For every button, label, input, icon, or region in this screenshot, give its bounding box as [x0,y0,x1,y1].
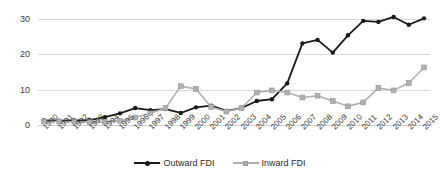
data-point [407,23,411,27]
data-point [148,111,153,116]
y-tick-label-0: 0 [25,120,30,130]
series-line [44,17,424,121]
y-axis: 0102030 [0,0,34,174]
data-point [376,20,380,24]
square-marker-icon [243,161,248,166]
data-point [331,50,335,54]
data-point [315,38,319,42]
data-point [422,16,426,20]
data-point [254,90,259,95]
data-point [300,41,304,45]
data-point [346,33,350,37]
data-point [406,81,411,86]
data-point [315,93,320,98]
data-point [376,86,381,91]
data-point [179,111,183,115]
data-point [391,15,395,19]
legend-label: Outward FDI [163,158,214,168]
data-point [285,90,290,95]
data-point [118,111,122,115]
data-point [255,99,259,103]
series-layer [38,12,430,125]
data-point [391,88,396,93]
data-point [178,84,183,89]
data-point [270,97,274,101]
fdi-line-chart: 0102030 19901991199219931994199519961997… [0,0,440,174]
data-point [285,81,289,85]
data-point [270,88,275,93]
data-point [194,87,199,92]
data-point [346,104,351,109]
data-point [330,99,335,104]
data-point [163,106,168,111]
data-point [209,105,214,110]
data-point [194,105,198,109]
series-outward-fdi [42,15,426,123]
y-tick-label-20: 20 [20,49,30,59]
legend-item-outward-fdi[interactable]: Outward FDI [134,158,214,168]
data-point [239,106,244,111]
legend-swatch [233,159,259,168]
y-tick-label-10: 10 [20,85,30,95]
y-tick-label-30: 30 [20,14,30,24]
data-point [361,19,365,23]
legend-item-inward-fdi[interactable]: Inward FDI [233,158,306,168]
chart-legend: Outward FDIInward FDI [0,155,440,171]
legend-label: Inward FDI [262,158,306,168]
data-point [422,65,427,70]
data-point [224,109,229,114]
data-point [300,95,305,100]
data-point [133,106,137,110]
data-point [361,100,366,105]
x-axis: 1990199119921993199419951996199719981999… [38,125,430,155]
circle-marker-icon [145,161,150,166]
plot-area [38,12,430,125]
legend-swatch [134,159,160,168]
